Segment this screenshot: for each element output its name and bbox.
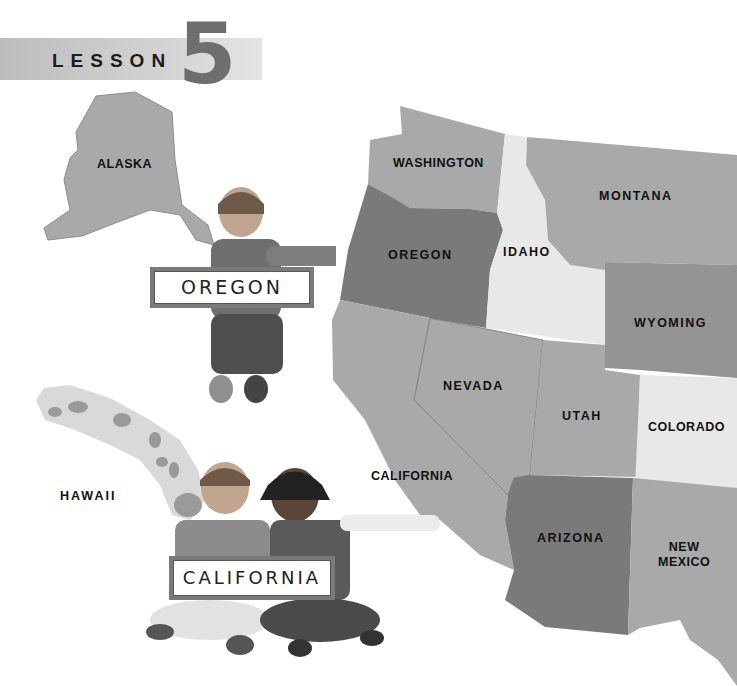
label-new-mexico: NEW MEXICO — [658, 540, 710, 570]
label-new-mexico-line1: NEW — [658, 540, 710, 555]
oregon-sign: OREGON — [150, 267, 314, 308]
california-sign: CALIFORNIA — [169, 556, 335, 600]
label-hawaii: HAWAII — [60, 489, 116, 503]
montana-shape — [526, 137, 737, 270]
label-new-mexico-line2: MEXICO — [658, 555, 710, 570]
label-montana: MONTANA — [599, 189, 672, 203]
label-oregon: OREGON — [388, 248, 453, 262]
california-sign-text: CALIFORNIA — [183, 567, 321, 588]
label-arizona: ARIZONA — [537, 531, 604, 545]
new-mexico-shape — [628, 478, 737, 686]
label-wyoming: WYOMING — [634, 316, 707, 330]
label-washington: WASHINGTON — [393, 156, 484, 170]
oregon-sign-text: OREGON — [181, 276, 283, 298]
arizona-shape — [505, 475, 633, 635]
label-utah: UTAH — [562, 409, 602, 423]
label-colorado: COLORADO — [648, 420, 725, 434]
label-nevada: NEVADA — [443, 379, 504, 393]
label-alaska: ALASKA — [97, 157, 152, 171]
label-idaho: IDAHO — [503, 245, 551, 259]
label-california: CALIFORNIA — [371, 469, 453, 483]
